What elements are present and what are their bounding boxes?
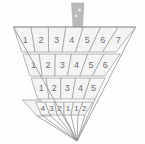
top-marker-group[interactable]	[72, 3, 85, 27]
row-2-cell-2-label: 2	[45, 60, 50, 70]
row-2-cell-1-label: 1	[31, 60, 36, 70]
row-3-cell-5-label: 5	[91, 83, 96, 93]
row-1-cell-7-label: 7	[116, 35, 121, 45]
row-4-cell-3-label: 2	[57, 104, 62, 113]
row-4-cell-2-label: 3	[49, 104, 54, 113]
top-marker-icon[interactable]	[72, 3, 85, 27]
row-2-cell-5-label: 5	[88, 60, 93, 70]
row-1: 1 2 3 4 5	[14, 27, 136, 52]
row-4-cell-5-label: 1	[74, 104, 79, 113]
row-1-cell-6-label: 6	[100, 35, 105, 45]
row-1-cell-4-label: 4	[69, 35, 74, 45]
row-4-cell-1-label: 4	[41, 104, 46, 113]
row-2-cell-3-label: 3	[60, 60, 65, 70]
diagram-canvas: 1 2 3 4 5	[0, 0, 145, 144]
row-3-cell-2-label: 2	[52, 83, 57, 93]
apex-line-2	[50, 115, 77, 141]
top-marker-notch2-icon	[75, 15, 78, 18]
row-4-cell-4-label: 1	[66, 104, 71, 113]
row-1-cell-5-label: 5	[85, 35, 90, 45]
row-2-cell-6-label: 6	[103, 60, 108, 70]
row-2: 1 2 3 4 5 6	[23, 54, 120, 76]
row-1-cell-2-label: 2	[38, 35, 43, 45]
row-3: 1 2 3 4 5	[31, 78, 105, 99]
row-1-cell-3-label: 3	[54, 35, 59, 45]
row-3-cell-1-label: 1	[39, 83, 44, 93]
numbered-triangle-diagram: 1 2 3 4 5	[0, 0, 145, 144]
row-1-cell-1-label: 1	[23, 35, 28, 45]
row-4-cell-6-label: 2	[82, 104, 87, 113]
top-marker-notch-icon	[78, 8, 81, 11]
row-3-cell-3-label: 3	[65, 83, 70, 93]
row-3-cell-4-label: 4	[78, 83, 83, 93]
row-4: 4 3 2 1 1 2	[23, 100, 93, 116]
row-2-cell-4-label: 4	[74, 60, 79, 70]
